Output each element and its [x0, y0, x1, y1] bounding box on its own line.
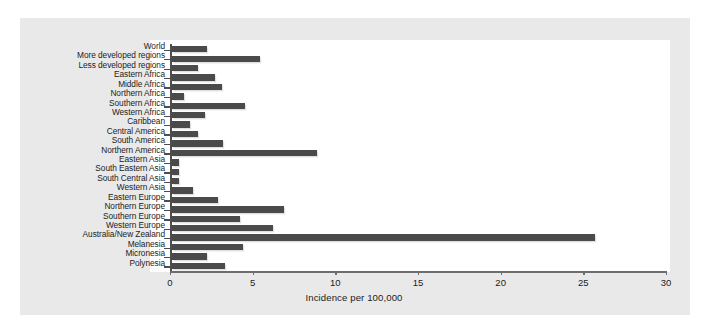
bar: [172, 225, 273, 231]
bar: [172, 197, 218, 203]
bar: [172, 178, 179, 184]
bar: [172, 56, 260, 62]
bar: [172, 131, 198, 137]
x-axis-tick-label: 20: [495, 277, 506, 288]
x-axis-tick-label: 25: [578, 277, 589, 288]
bar: [172, 169, 179, 175]
chart-figure: WorldMore developed regionsLess develope…: [0, 0, 708, 332]
x-axis-tick-label: 0: [167, 277, 172, 288]
x-axis-tick-label: 15: [413, 277, 424, 288]
bar: [172, 150, 317, 156]
x-axis-tick: [501, 271, 502, 275]
bar: [172, 74, 215, 80]
bar: [172, 206, 284, 212]
bar-row: Polynesia: [0, 262, 708, 271]
bar: [172, 187, 193, 193]
bar: [172, 234, 595, 240]
y-axis-tick: [164, 266, 170, 267]
x-axis-tick: [666, 271, 667, 275]
bar: [172, 103, 245, 109]
bar: [172, 216, 240, 222]
x-axis-tick-label: 30: [661, 277, 672, 288]
bar: [172, 84, 222, 90]
x-axis-tick: [170, 271, 171, 275]
bar: [172, 253, 207, 259]
x-axis-tick-label: 10: [330, 277, 341, 288]
bar: [172, 112, 205, 118]
x-axis-tick: [335, 271, 336, 275]
bar: [172, 263, 225, 269]
bar: [172, 121, 190, 127]
bar: [172, 140, 223, 146]
bar: [172, 46, 207, 52]
bar: [172, 65, 198, 71]
bar: [172, 93, 184, 99]
bar: [172, 159, 179, 165]
x-axis-tick: [253, 271, 254, 275]
bar: [172, 244, 243, 250]
x-axis-tick-label: 5: [250, 277, 255, 288]
category-label: Polynesia: [0, 259, 165, 268]
x-axis-tick: [583, 271, 584, 275]
x-axis-title: Incidence per 100,000: [0, 292, 708, 303]
x-axis-tick: [418, 271, 419, 275]
